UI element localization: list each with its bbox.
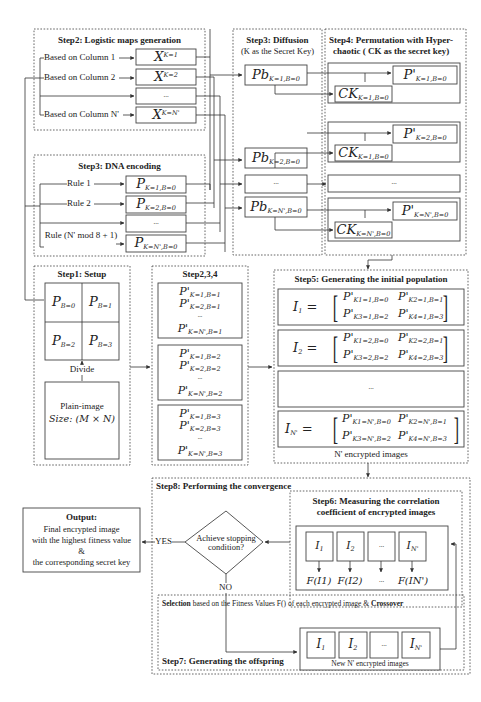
offspring-i2: I2 — [339, 638, 367, 652]
dna-block-pn: PK=N',B=0 — [126, 236, 186, 251]
diffusion-pb2: PbK=2,B=0 — [245, 151, 307, 166]
yes-label: YES — [155, 537, 172, 547]
plain-image-size: Size: (M × N) — [45, 414, 119, 424]
step5-population-title: Step5: Generating the initial population — [274, 275, 468, 285]
block-p-b1: PB=1 — [82, 295, 119, 310]
logistic-map-x1: XK=1 — [136, 50, 196, 64]
output-line: Final encrypted image — [23, 525, 140, 534]
logistic-row-label: Based on Column 1 — [44, 53, 115, 63]
step5-footer: N' encrypted images — [274, 450, 468, 460]
offspring-in: IN' — [402, 638, 430, 652]
step234-title: Step2,3,4 — [152, 270, 248, 280]
dna-block-p2: PK=2,B=0 — [126, 197, 186, 212]
selection-crossover-text: Selection based on the Fitness Values F(… — [162, 600, 403, 608]
output-line: with the highest fitness value — [23, 536, 140, 545]
perm-ck1: CKK=1,B=0 — [335, 87, 392, 102]
step3-diffusion-title: Step3: Diffusion — [233, 36, 322, 46]
output-title: Output: — [23, 513, 140, 523]
offspring-footer: New N' encrypted images — [300, 660, 440, 668]
perm-p2: P'K=2,B=0 — [393, 127, 457, 142]
block-p-b3: PB=3 — [82, 334, 119, 349]
offspring-i1: I1 — [307, 638, 335, 652]
fitness-ellipsis: ... — [368, 577, 395, 585]
step4-permutation-title: Step4: Permutation with Hyper- — [329, 36, 453, 46]
dna-block-ellipsis: ... — [126, 219, 186, 227]
step6-title-line2: coefficient of encrypted images — [290, 508, 462, 518]
dna-rule-label: Rule (N' mod 8 + 1) — [44, 230, 118, 241]
divide-label: Divide — [45, 365, 119, 375]
measure-image-in: IN' — [399, 540, 426, 553]
output-line: & — [23, 547, 140, 556]
block-p-b2: PB=2 — [45, 334, 82, 349]
perm-pn: P'K=N',B=0 — [393, 204, 457, 219]
step8-convergence-title: Step8: Performing the convergence — [156, 482, 291, 492]
step4-permutation-subtitle: chaotic ( CK as the secret key) — [333, 47, 449, 57]
step2-logistic-title: Step2: Logistic maps generation — [34, 36, 205, 46]
perm-ellipsis: ... — [328, 179, 460, 187]
dna-rule-label: Rule 1 — [67, 179, 91, 189]
stopping-condition-decision: Achieve stopping condition? — [188, 534, 264, 553]
diffusion-pb1: PbK=1,B=0 — [245, 68, 307, 83]
step6-title-line1: Step6: Measuring the correlation — [290, 497, 462, 507]
output-line: the corresponding secret key — [23, 558, 140, 567]
logistic-map-x2: XK=2 — [136, 70, 196, 84]
diffusion-ellipsis: ... — [245, 179, 307, 187]
perm-ckn: CKK=N',B=0 — [335, 223, 392, 238]
logistic-map-xn: XK=N' — [136, 108, 196, 122]
individual-ellipsis: ... — [278, 384, 464, 392]
dna-rule-label: Rule 2 — [67, 199, 91, 209]
step1-setup-title: Step1: Setup — [34, 270, 130, 280]
no-label: NO — [219, 583, 232, 593]
measure-image-ellipsis: ... — [368, 542, 395, 550]
offspring-ellipsis: ... — [370, 641, 398, 649]
measure-image-i1: I1 — [306, 540, 333, 553]
step3-dna-title: Step3: DNA encoding — [34, 162, 205, 172]
step3-diffusion-subtitle: (K as the Secret Key) — [231, 47, 324, 56]
fitness-f2: F(I2) — [332, 575, 368, 586]
logistic-row-label: Based on Column N' — [44, 110, 119, 120]
diffusion-pbn: PbK=N',B=0 — [245, 200, 307, 215]
block-p-b0: PB=0 — [45, 295, 82, 310]
step7-offspring-title: Step7: Generating the offspring — [162, 657, 284, 667]
perm-p1: P'K=1,B=0 — [393, 68, 457, 83]
logistic-map-ellipsis: ... — [136, 92, 196, 100]
measure-image-i2: I2 — [337, 540, 364, 553]
plain-image-label: Plain-image — [45, 402, 119, 412]
dna-block-p1: PK=1,B=0 — [126, 177, 186, 192]
fitness-fn: F(IN') — [392, 575, 434, 586]
perm-ck2: CKK=1,B=0 — [335, 146, 392, 161]
logistic-row-label: Based on Column 2 — [44, 73, 115, 83]
